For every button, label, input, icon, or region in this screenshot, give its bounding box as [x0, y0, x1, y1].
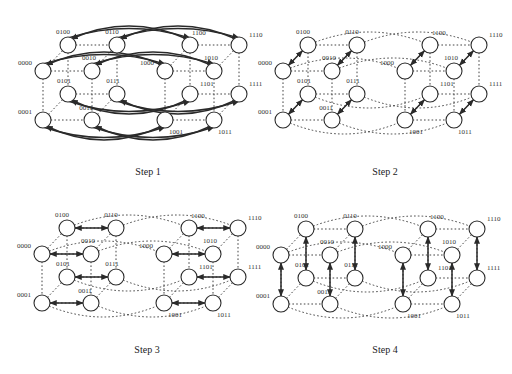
node-label: 0111 — [105, 260, 119, 268]
node-label: 1100 — [191, 212, 205, 220]
node-circle — [157, 63, 173, 79]
node-label: 0011 — [319, 104, 333, 112]
node-0100: 0100 — [55, 211, 75, 236]
link-0011-1011 — [330, 304, 452, 318]
node-1001: 1001 — [156, 295, 183, 319]
node-circle — [471, 86, 487, 102]
node-0110: 0110 — [105, 28, 125, 53]
node-0011: 0011 — [317, 288, 338, 312]
node-circle — [108, 220, 124, 236]
node-circle — [84, 112, 100, 128]
node-0010: 0010 — [82, 54, 100, 79]
node-label: 0111 — [344, 261, 358, 269]
node-1100: 1100 — [182, 29, 206, 53]
node-0000: 0000 — [258, 59, 291, 79]
node-circle — [275, 63, 291, 79]
node-circle — [109, 86, 125, 102]
node-0111: 0111 — [344, 261, 363, 286]
node-label: 0100 — [296, 28, 311, 36]
node-label: 1000 — [378, 243, 393, 251]
node-label: 0100 — [56, 28, 71, 36]
node-0100: 0100 — [294, 212, 314, 237]
node-1000: 1000 — [380, 59, 413, 79]
node-circle — [347, 221, 363, 237]
node-label: 1100 — [192, 29, 206, 37]
node-1110: 1110 — [471, 31, 503, 53]
node-1011: 1011 — [446, 112, 472, 136]
node-circle — [397, 63, 413, 79]
node-circle — [275, 112, 291, 128]
exchange-arrow-0000-0100 — [289, 51, 303, 65]
node-0001: 0001 — [256, 292, 289, 312]
node-label: 0110 — [345, 28, 359, 36]
node-label: 1101 — [200, 80, 214, 88]
node-circle — [109, 37, 125, 53]
link-0001-1001 — [42, 303, 164, 317]
node-circle — [422, 37, 438, 53]
node-label: 0001 — [18, 108, 33, 116]
node-circle — [59, 269, 75, 285]
node-circle — [273, 296, 289, 312]
node-label: 1010 — [444, 54, 459, 62]
node-label: 1101 — [199, 263, 213, 271]
node-circle — [444, 247, 460, 263]
node-circle — [59, 220, 75, 236]
node-circle — [444, 296, 460, 312]
node-label: 1011 — [458, 128, 472, 136]
hypercube-figure: 0000000100100011010001010110011110001001… — [0, 0, 512, 374]
node-circle — [300, 86, 316, 102]
node-circle — [322, 247, 338, 263]
node-1101: 1101 — [181, 263, 213, 285]
node-label: 1011 — [456, 312, 470, 320]
node-circle — [156, 246, 172, 262]
node-circle — [420, 270, 436, 286]
node-circle — [83, 295, 99, 311]
node-circle — [324, 63, 340, 79]
node-circle — [157, 112, 173, 128]
node-circle — [60, 37, 76, 53]
node-1011: 1011 — [444, 296, 470, 320]
node-label: 1011 — [218, 128, 232, 136]
node-label: 0010 — [81, 237, 96, 245]
node-circle — [231, 37, 247, 53]
exchange-arrow-1001-1101 — [411, 100, 425, 114]
node-label: 0011 — [79, 104, 93, 112]
node-1100: 1100 — [422, 29, 446, 53]
node-label: 1111 — [248, 263, 262, 271]
node-label: 0010 — [82, 54, 97, 62]
node-circle — [230, 220, 246, 236]
diagram-canvas: 0000000100100011010001010110011110001001… — [0, 0, 512, 374]
node-label: 0000 — [256, 243, 271, 251]
node-1001: 1001 — [397, 112, 424, 136]
node-1011: 1011 — [205, 295, 231, 319]
node-1111: 1111 — [471, 80, 503, 102]
node-circle — [182, 86, 198, 102]
node-label: 1111 — [489, 80, 503, 88]
node-circle — [60, 86, 76, 102]
link-0110-1110 — [357, 32, 479, 45]
link-0011-1011 — [91, 303, 213, 317]
node-label: 1110 — [487, 215, 501, 223]
node-label: 1100 — [432, 29, 446, 37]
node-label: 0111 — [106, 77, 120, 85]
node-0110: 0110 — [345, 28, 365, 53]
step-caption: Step 2 — [372, 166, 397, 177]
node-label: 0001 — [256, 292, 271, 300]
node-circle — [231, 86, 247, 102]
node-0011: 0011 — [319, 104, 340, 128]
node-circle — [273, 247, 289, 263]
node-1101: 1101 — [422, 80, 454, 102]
node-0011: 0011 — [79, 104, 100, 128]
node-circle — [322, 296, 338, 312]
node-1010: 1010 — [444, 54, 462, 79]
node-label: 1010 — [203, 237, 218, 245]
link-0110-1110 — [355, 216, 477, 229]
exchange-arrow-1011-1111 — [460, 100, 474, 114]
node-label: 1010 — [442, 238, 457, 246]
step-caption: Step 4 — [372, 344, 397, 355]
node-circle — [206, 63, 222, 79]
link-0100-1100 — [67, 215, 189, 228]
node-label: 0110 — [104, 211, 118, 219]
node-label: 1000 — [140, 59, 155, 67]
node-0010: 0010 — [322, 54, 340, 79]
